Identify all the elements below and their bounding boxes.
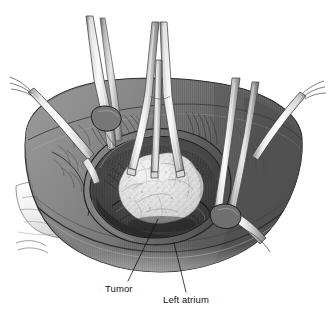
retractor-collar-right: [210, 204, 241, 229]
label-left-atrium: Left atrium: [163, 295, 209, 305]
retractor-collar-left: [91, 106, 121, 131]
illustration-canvas: [0, 0, 331, 315]
label-tumor: Tumor: [105, 284, 133, 294]
surgical-illustration-figure: Tumor Left atrium: [0, 0, 331, 315]
